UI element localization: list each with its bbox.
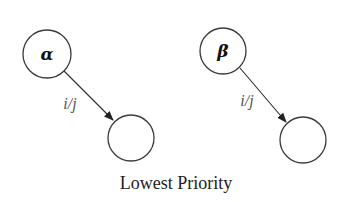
state-diagram: α i/j β i/j Lowest Priority (0, 0, 344, 202)
alpha-state-label: α (40, 44, 53, 64)
left-target-state-node (108, 115, 154, 161)
left-transition-label: i/j (63, 95, 77, 113)
right-transition-group: β i/j (200, 28, 326, 163)
beta-state-label: β (216, 41, 228, 61)
left-transition-group: α i/j (23, 30, 154, 161)
right-target-state-node (280, 117, 326, 163)
right-transition-label: i/j (240, 92, 254, 110)
diagram-caption: Lowest Priority (120, 173, 233, 193)
